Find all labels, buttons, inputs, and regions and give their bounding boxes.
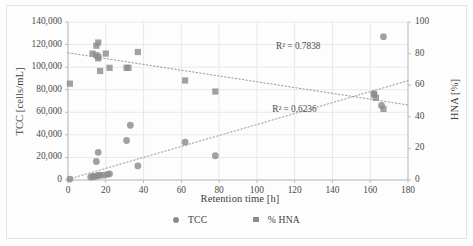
chart-figure: TCC [cells/mL] HNA [%] Retention time [h… — [0, 0, 473, 246]
y-axis-right-tick-label: 60 — [415, 79, 445, 89]
data-point-hna — [106, 65, 112, 71]
data-point-tcc — [106, 170, 113, 177]
x-axis-tick-label: 160 — [350, 185, 390, 195]
data-point-hna — [135, 49, 141, 55]
data-point-tcc — [182, 139, 189, 146]
data-point-tcc — [380, 33, 387, 40]
data-point-hna — [125, 65, 131, 71]
scatter-plot-canvas — [0, 0, 473, 246]
data-point-tcc — [127, 122, 134, 129]
chart-legend: TCC % HNA — [0, 214, 473, 225]
y-axis-left-tick-label: 120,000 — [4, 39, 62, 49]
y-axis-left-tick-label: 100,000 — [4, 61, 62, 71]
y-axis-left-tick-label: 20,000 — [4, 151, 62, 161]
y-axis-right-title: HNA [%] — [449, 35, 460, 165]
y-axis-left-tick-label: 0 — [4, 174, 62, 184]
legend-label-tcc: TCC — [188, 214, 207, 225]
data-point-tcc — [95, 149, 102, 156]
data-point-tcc — [66, 176, 73, 183]
y-axis-right-tick-label: 20 — [415, 142, 445, 152]
data-point-hna — [373, 95, 379, 101]
data-point-hna — [212, 88, 218, 94]
x-axis-tick-label: 0 — [48, 185, 88, 195]
data-point-hna — [182, 77, 188, 83]
data-point-hna — [97, 68, 103, 74]
x-axis-tick-label: 100 — [237, 185, 277, 195]
y-axis-left-tick-label: 40,000 — [4, 129, 62, 139]
data-point-hna — [103, 51, 109, 57]
circle-marker-icon — [173, 217, 179, 223]
y-axis-left-tick-label: 60,000 — [4, 106, 62, 116]
data-point-hna — [95, 39, 101, 45]
r-squared-annotation: R² = 0.7838 — [276, 41, 320, 51]
legend-item-hna: % HNA — [253, 214, 300, 225]
y-axis-right-tick-label: 0 — [415, 174, 445, 184]
y-axis-right-tick-label: 100 — [415, 16, 445, 26]
y-axis-left-title: TCC [cells/mL] — [14, 37, 25, 167]
legend-item-tcc: TCC — [173, 214, 207, 225]
x-axis-tick-label: 180 — [388, 185, 428, 195]
legend-label-hna: % HNA — [268, 214, 300, 225]
trendline — [68, 53, 408, 105]
data-point-tcc — [93, 158, 100, 165]
data-point-tcc — [123, 137, 130, 144]
data-point-hna — [380, 106, 386, 112]
square-marker-icon — [253, 217, 259, 223]
y-axis-left-tick-label: 80,000 — [4, 84, 62, 94]
data-point-tcc — [134, 162, 141, 169]
x-axis-tick-label: 60 — [161, 185, 201, 195]
data-point-hna — [67, 81, 73, 87]
x-axis-tick-label: 140 — [312, 185, 352, 195]
y-axis-right-tick-label: 40 — [415, 111, 445, 121]
r-squared-annotation: R² = 0.6236 — [272, 104, 316, 114]
y-axis-left-tick-label: 140,000 — [4, 16, 62, 26]
y-axis-right-tick-label: 80 — [415, 48, 445, 58]
x-axis-tick-label: 120 — [275, 185, 315, 195]
x-axis-tick-label: 20 — [86, 185, 126, 195]
data-point-tcc — [212, 152, 219, 159]
data-point-hna — [95, 54, 101, 60]
trendline — [68, 81, 408, 180]
x-axis-tick-label: 40 — [124, 185, 164, 195]
x-axis-tick-label: 80 — [199, 185, 239, 195]
